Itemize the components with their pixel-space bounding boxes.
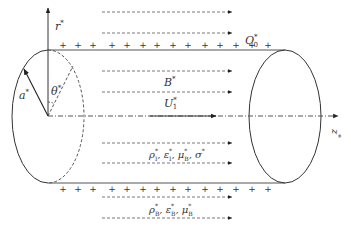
plus-charge: +	[59, 40, 67, 50]
left-ellipse-back	[48, 50, 84, 183]
plus-charge: +	[169, 40, 177, 50]
plus-charge: +	[89, 184, 97, 194]
plus-charge: +	[216, 184, 224, 194]
velocity-label: U*1	[164, 96, 177, 111]
magnetic-field-label: B*	[163, 75, 176, 89]
plus-charge: +	[169, 184, 177, 194]
plus-charge: +	[232, 184, 240, 194]
left-ellipse-front	[12, 50, 48, 183]
z-axis-label: z*	[330, 128, 342, 138]
plus-charge: +	[153, 40, 161, 50]
plus-charge: +	[139, 184, 147, 194]
plus-charge: +	[184, 184, 192, 194]
plus-charge: +	[232, 40, 240, 50]
plus-charge: +	[139, 40, 147, 50]
plus-charge: +	[74, 40, 82, 50]
plus-charge: +	[153, 184, 161, 194]
surface-charges-top: ++++++++++++++	[59, 40, 272, 50]
field-arrows	[102, 12, 232, 218]
plus-charge: +	[264, 40, 272, 50]
plus-charge: +	[264, 184, 272, 194]
angle-arc	[48, 102, 54, 104]
radius-label: a*	[19, 88, 30, 102]
plus-charge: +	[59, 184, 67, 194]
plus-charge: +	[201, 40, 209, 50]
plus-charge: +	[123, 184, 131, 194]
plus-charge: +	[216, 40, 224, 50]
plus-charge: +	[248, 184, 256, 194]
surface-charges-bottom: ++++++++++++++	[59, 184, 272, 194]
inner-properties-label: ρ*I, ε*I, μ*B, σ*	[148, 147, 205, 162]
jet-diagram: ++++++++++++++ ++++++++++++++ r* z* a* θ…	[0, 0, 351, 228]
plus-charge: +	[123, 40, 131, 50]
plus-charge: +	[108, 184, 116, 194]
right-ellipse	[249, 50, 321, 183]
angle-label: θ*	[51, 84, 62, 98]
plus-charge: +	[89, 40, 97, 50]
plus-charge: +	[184, 40, 192, 50]
r-axis-label: r*	[55, 19, 64, 33]
plus-charge: +	[74, 184, 82, 194]
plus-charge: +	[201, 184, 209, 194]
plus-charge: +	[108, 40, 116, 50]
surface-charge-label: Q*0	[245, 33, 258, 49]
outer-properties-label: ρ*B, ε*B, μ*B	[148, 202, 193, 217]
